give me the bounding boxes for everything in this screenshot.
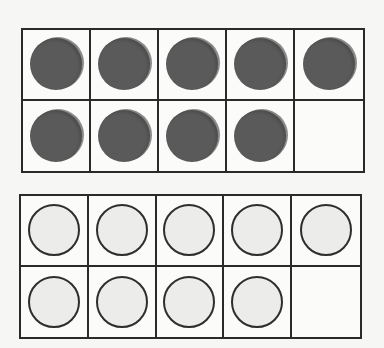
ten-frame-bottom [19, 194, 362, 339]
ten-frame-cell [21, 196, 89, 267]
ten-frame-cell [157, 196, 225, 267]
filled-counter-icon [303, 38, 355, 90]
filled-counter-icon [98, 38, 150, 90]
ten-frame-cell [91, 101, 159, 172]
ten-frame-cell [157, 267, 225, 338]
empty-counter-icon [163, 204, 215, 256]
filled-counter-icon [166, 110, 218, 162]
filled-counter-icon [166, 38, 218, 90]
ten-frame-cell [224, 196, 292, 267]
empty-counter-icon [163, 276, 215, 328]
empty-counter-icon [28, 276, 80, 328]
empty-counter-icon [28, 204, 80, 256]
ten-frame-cell [227, 30, 295, 101]
ten-frame-cell [21, 267, 89, 338]
ten-frame-cell [295, 101, 363, 172]
ten-frame-cell [224, 267, 292, 338]
filled-counter-icon [234, 38, 286, 90]
ten-frame-cell [89, 196, 157, 267]
empty-counter-icon [96, 276, 148, 328]
ten-frame-cell [227, 101, 295, 172]
ten-frame-cell [292, 196, 360, 267]
empty-counter-icon [231, 276, 283, 328]
ten-frame-cell [91, 30, 159, 101]
ten-frame-cell [295, 30, 363, 101]
ten-frame-cell [159, 101, 227, 172]
ten-frame-cell [159, 30, 227, 101]
empty-counter-icon [231, 204, 283, 256]
filled-counter-icon [98, 110, 150, 162]
ten-frame-cell [292, 267, 360, 338]
filled-counter-icon [30, 38, 82, 90]
empty-counter-icon [300, 204, 352, 256]
filled-counter-icon [234, 110, 286, 162]
ten-frame-cell [23, 101, 91, 172]
ten-frame-top [21, 28, 365, 173]
empty-counter-icon [96, 204, 148, 256]
filled-counter-icon [30, 110, 82, 162]
ten-frame-cell [23, 30, 91, 101]
ten-frame-cell [89, 267, 157, 338]
